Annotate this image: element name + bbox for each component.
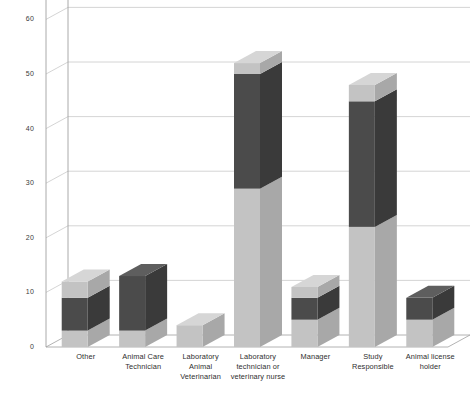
x-axis-category-label-line: technician or [220, 362, 296, 372]
bar-column [62, 269, 110, 347]
y-axis-tick-label: 60 [10, 15, 34, 22]
bar-column [234, 51, 282, 347]
chart-canvas [0, 0, 476, 396]
bar-column [349, 73, 397, 347]
y-axis-tick-label: 10 [10, 288, 34, 295]
x-axis-category-label-line: veterinary nurse [220, 372, 296, 382]
stacked-column-chart: 0102030405060 OtherAnimal CareTechnician… [0, 0, 476, 396]
y-axis-tick-label: 30 [10, 179, 34, 186]
x-axis-category-label-line: holder [392, 362, 468, 372]
y-axis-tick-label: 50 [10, 70, 34, 77]
x-axis-category-label-line: Animal license [392, 352, 468, 362]
x-axis-category-label: Animal licenseholder [392, 352, 468, 372]
y-axis-tick-label: 20 [10, 234, 34, 241]
bar-column [291, 275, 339, 347]
bars-group [62, 51, 455, 347]
bar-column [406, 286, 454, 347]
y-axis-tick-label: 40 [10, 125, 34, 132]
y-axis-tick-label: 0 [10, 343, 34, 350]
bar-column [119, 264, 167, 347]
